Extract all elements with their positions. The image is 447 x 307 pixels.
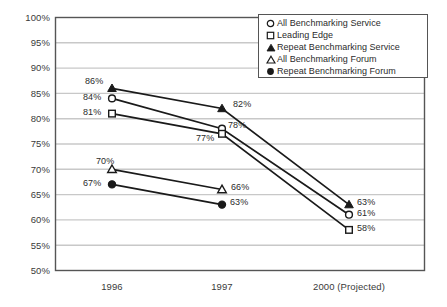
legend-item-repeat-benchmarking-service[interactable]: Repeat Benchmarking Service (264, 41, 427, 53)
y-axis-tick-60: 60% (8, 214, 50, 225)
y-axis-tick-70: 70% (8, 164, 50, 175)
marker-filled-circle (218, 201, 225, 208)
y-axis-tick-65: 65% (8, 189, 50, 200)
data-label-1996-repeat-benchmarking-forum: 67% (83, 178, 101, 188)
x-axis-tick-2000: 2000 (Projected) (302, 281, 396, 292)
data-label-1996-leading-edge: 81% (83, 107, 101, 117)
legend-item-repeat-benchmarking-forum[interactable]: Repeat Benchmarking Forum (264, 65, 427, 77)
filled-triangle-icon (264, 43, 277, 52)
data-label-1997-all-benchmarking-service: 78% (228, 120, 246, 130)
marker-open-square (219, 131, 226, 138)
y-axis-tick-100: 100% (8, 12, 50, 23)
y-axis-tick-95: 95% (8, 37, 50, 48)
y-axis-tick-75: 75% (8, 138, 50, 149)
open-square-icon (264, 31, 277, 40)
x-axis-tick-1996: 1996 (82, 281, 142, 292)
open-circle-icon (264, 19, 277, 28)
open-triangle-icon (264, 55, 277, 64)
marker-open-square (109, 110, 116, 117)
data-label-1997-leading-edge: 77% (196, 133, 214, 143)
marker-open-circle (109, 95, 116, 102)
legend-label: Repeat Benchmarking Forum (277, 66, 396, 76)
y-axis-tick-50: 50% (8, 265, 50, 276)
data-label-2000-all-benchmarking-service: 61% (357, 208, 375, 218)
chart-legend: All Benchmarking Service Leading Edge Re… (258, 14, 428, 78)
x-axis-tick-1997: 1997 (192, 281, 252, 292)
y-axis-tick-80: 80% (8, 113, 50, 124)
filled-circle-icon (264, 67, 277, 76)
legend-label: Leading Edge (277, 30, 333, 40)
data-label-1996-all-benchmarking-forum: 70% (96, 156, 114, 166)
legend-item-leading-edge[interactable]: Leading Edge (264, 29, 427, 41)
legend-label: All Benchmarking Forum (277, 54, 377, 64)
data-label-1997-repeat-benchmarking-service: 82% (233, 99, 251, 109)
line-chart: 100% 95% 90% 85% 80% 75% 70% 65% 60% 55%… (0, 0, 447, 307)
legend-item-all-benchmarking-forum[interactable]: All Benchmarking Forum (264, 53, 427, 65)
data-label-2000-repeat-benchmarking-service: 63% (357, 197, 375, 207)
y-axis-tick-90: 90% (8, 62, 50, 73)
y-axis-tick-55: 55% (8, 240, 50, 251)
legend-label: Repeat Benchmarking Service (277, 42, 400, 52)
legend-label: All Benchmarking Service (277, 18, 381, 28)
y-axis-tick-85: 85% (8, 88, 50, 99)
data-label-1996-repeat-benchmarking-service: 86% (85, 76, 103, 86)
legend-item-all-benchmarking-service[interactable]: All Benchmarking Service (264, 17, 427, 29)
marker-open-square (346, 227, 353, 234)
data-label-1997-all-benchmarking-forum: 66% (231, 182, 249, 192)
data-label-1997-repeat-benchmarking-forum: 63% (230, 197, 248, 207)
data-label-1996-all-benchmarking-service: 84% (83, 92, 101, 102)
marker-filled-circle (108, 181, 115, 188)
data-label-2000-leading-edge: 58% (357, 223, 375, 233)
marker-open-circle (346, 211, 353, 218)
